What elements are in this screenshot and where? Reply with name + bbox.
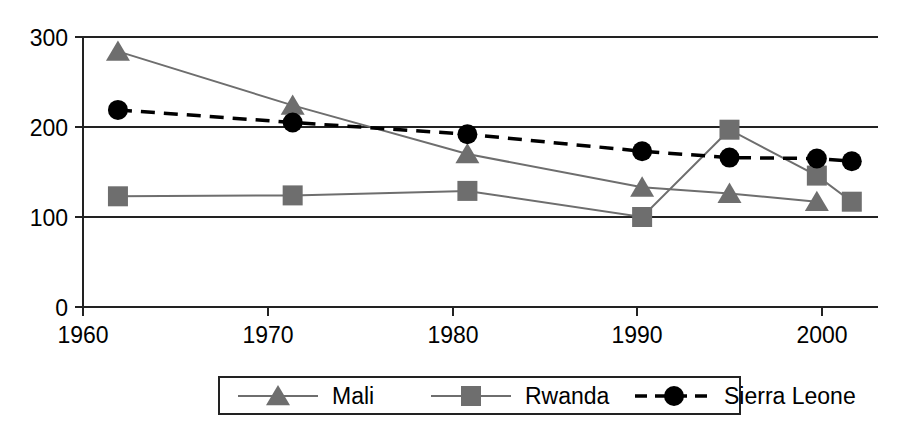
datapoint-sierra-leone-1 <box>283 113 303 133</box>
datapoint-sierra-leone-6 <box>842 151 862 171</box>
datapoint-rwanda-4 <box>719 120 739 140</box>
gridlines <box>83 37 878 217</box>
datapoint-sierra-leone-4 <box>719 148 739 168</box>
datapoint-rwanda-6 <box>842 192 862 212</box>
legend: MaliRwandaSierra Leone <box>219 377 856 414</box>
datapoint-rwanda-5 <box>807 166 827 186</box>
y-tick-label-0: 0 <box>55 295 68 321</box>
datapoint-sierra-leone-2 <box>457 124 477 144</box>
legend-label-2: Sierra Leone <box>724 383 856 409</box>
legend-label-0: Mali <box>332 383 374 409</box>
series-line-rwanda <box>118 130 852 217</box>
datapoint-rwanda-2 <box>457 181 477 201</box>
y-tick-label-200: 200 <box>30 115 68 141</box>
x-tick-label-1960: 1960 <box>57 322 108 348</box>
datapoint-mali-1 <box>281 94 305 114</box>
datapoint-rwanda-3 <box>632 207 652 227</box>
x-tick-labels: 1960 1970 1980 1990 2000 <box>57 322 847 348</box>
datapoint-sierra-leone-3 <box>632 141 652 161</box>
legend-label-1: Rwanda <box>525 383 610 409</box>
axes <box>75 37 878 316</box>
line-chart: 300 200 100 0 1960 1970 1980 1990 2000 M… <box>0 0 919 429</box>
legend-marker-circle <box>664 386 684 406</box>
datapoint-rwanda-0 <box>108 186 128 206</box>
datapoint-mali-2 <box>455 143 479 163</box>
x-tick-label-2000: 2000 <box>796 322 847 348</box>
legend-marker-square <box>461 386 481 406</box>
series-sierra-leone <box>108 100 862 171</box>
y-tick-label-100: 100 <box>30 205 68 231</box>
series-rwanda <box>108 120 862 227</box>
x-tick-label-1980: 1980 <box>427 322 478 348</box>
x-tick-label-1990: 1990 <box>611 322 662 348</box>
x-tick-label-1970: 1970 <box>242 322 293 348</box>
y-tick-label-300: 300 <box>30 25 68 51</box>
datapoint-mali-0 <box>106 40 130 60</box>
datapoint-sierra-leone-5 <box>807 149 827 169</box>
y-tick-labels: 300 200 100 0 <box>30 25 68 321</box>
series-layer <box>106 40 862 227</box>
datapoint-rwanda-1 <box>283 185 303 205</box>
datapoint-sierra-leone-0 <box>108 100 128 120</box>
chart-container: 300 200 100 0 1960 1970 1980 1990 2000 M… <box>0 0 919 429</box>
